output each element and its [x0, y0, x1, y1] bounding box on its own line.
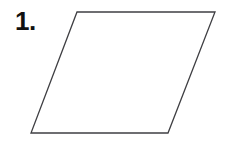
parallelogram-figure: [0, 0, 228, 156]
parallelogram-shape: [31, 12, 215, 133]
worksheet-figure-container: 1.: [0, 0, 228, 156]
